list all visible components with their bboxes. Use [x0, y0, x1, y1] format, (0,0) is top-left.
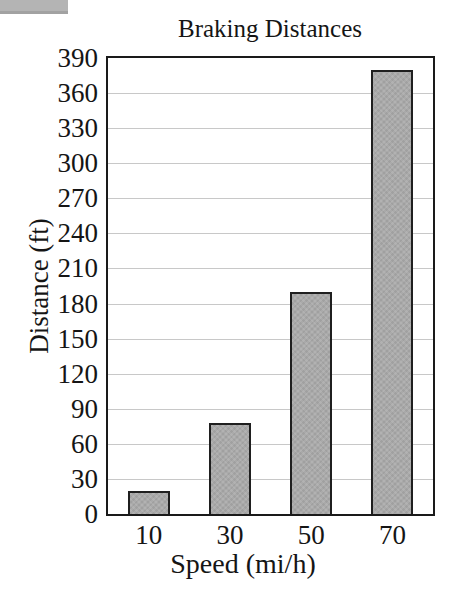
chart-title: Braking Distances [178, 15, 362, 43]
y-tick-label-60: 60 [0, 428, 98, 460]
x-axis-tick-labels: 10305070 [108, 519, 433, 551]
y-tick-label-180: 180 [0, 288, 98, 320]
scan-artifact [0, 0, 68, 14]
y-tick-label-270: 270 [0, 182, 98, 214]
bar-speed-10 [128, 491, 170, 514]
y-tick-label-330: 330 [0, 112, 98, 144]
y-tick-label-90: 90 [0, 393, 98, 425]
page: Braking Distances Distance (ft) 39036033… [0, 0, 452, 608]
y-tick-label-300: 300 [0, 147, 98, 179]
x-axis-title: Speed (mi/h) [170, 548, 315, 580]
bar-speed-30 [209, 423, 251, 514]
bar-speed-50 [290, 292, 332, 514]
y-tick-label-240: 240 [0, 217, 98, 249]
y-tick-label-0: 0 [0, 498, 98, 530]
plot-area [106, 56, 435, 516]
y-axis-tick-labels: 3903603303002702402101801501209060300 [0, 58, 100, 514]
x-tick-label-70: 70 [352, 519, 433, 551]
x-tick-label-30: 30 [189, 519, 270, 551]
x-tick-label-10: 10 [108, 519, 189, 551]
y-tick-label-390: 390 [0, 42, 98, 74]
y-tick-label-150: 150 [0, 323, 98, 355]
bar-speed-70 [371, 70, 413, 514]
x-tick-label-50: 50 [271, 519, 352, 551]
y-tick-label-360: 360 [0, 77, 98, 109]
y-tick-label-120: 120 [0, 358, 98, 390]
y-tick-label-210: 210 [0, 252, 98, 284]
y-tick-label-30: 30 [0, 463, 98, 495]
